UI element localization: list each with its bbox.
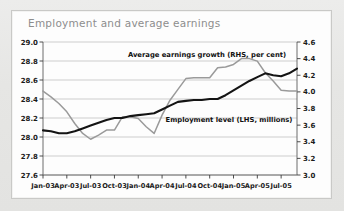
right-axis-tick-label: 4.0 [303,88,316,96]
right-axis-tick-label: 3.6 [303,122,316,130]
x-axis-tick-labels: Jan-03Apr-03Jul-03Oct-03Jan-04Apr-04Jul-… [30,182,292,190]
left-axis-tick-label: 27.8 [21,153,38,161]
right-axis-tick-label: 3.4 [303,138,316,146]
right-axis-tick-label: 3.8 [303,105,316,113]
left-axis-tick-label: 29.0 [21,39,38,47]
right-axis-tick-labels: 3.03.23.43.63.84.04.24.44.6 [303,39,316,180]
employment-earnings-line-chart: 27.627.828.028.228.428.628.829.0 3.03.23… [11,10,330,197]
left-axis-tick-label: 28.6 [21,77,38,85]
x-axis-tick-label: Jan-05 [221,182,246,190]
gridlines-group [43,42,297,175]
right-axis-tick-label: 3.0 [303,172,316,180]
left-axis-tick-label: 28.2 [21,115,38,123]
x-axis-tick-label: Oct-04 [197,182,222,190]
annotation-average-earnings-growth: Average earnings growth (RHS, per cent) [128,51,286,59]
x-axis-tick-label: Apr-04 [150,182,175,190]
left-axis-tick-label: 28.8 [21,58,38,66]
x-axis-tick-label: Oct-03 [102,182,127,190]
left-axis-tick-label: 28.0 [21,134,38,142]
x-axis-tick-label: Jul-04 [174,182,197,190]
x-axis-tick-label: Jan-03 [30,182,55,190]
annotation-employment-level: Employment level (LHS, millions) [166,116,293,124]
left-axis-tick-labels: 27.627.828.028.228.428.628.829.0 [21,39,38,180]
left-axis-tick-label: 28.4 [21,96,38,104]
tickmarks-group [40,42,301,179]
right-axis-tick-label: 3.2 [303,155,316,163]
right-axis-tick-label: 4.2 [303,72,316,80]
x-axis-tick-label: Jul-05 [269,182,292,190]
left-axis-tick-label: 27.6 [21,172,38,180]
chart-plot-area: 27.627.828.028.228.428.628.829.0 3.03.23… [11,10,330,197]
x-axis-tick-label: Jan-04 [125,182,150,190]
x-axis-tick-label: Apr-05 [245,182,270,190]
screenshot-root: Employment and average earnings 27.627.8… [0,0,344,211]
right-axis-tick-label: 4.4 [303,55,316,63]
axes-group [43,42,297,175]
x-axis-tick-label: Jul-03 [79,182,102,190]
right-axis-tick-label: 4.6 [303,39,316,47]
x-axis-tick-label: Apr-03 [54,182,79,190]
